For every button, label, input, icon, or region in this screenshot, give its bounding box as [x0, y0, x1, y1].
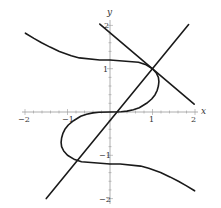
- plot-area: −2 −1 1 2 2 1 −1 −2 x y: [0, 0, 221, 208]
- x-axis-label: x: [201, 106, 206, 116]
- y-axis-label: y: [106, 7, 113, 17]
- x-tick-label-1: 1: [149, 115, 154, 124]
- x-tick-label-neg2: −2: [18, 115, 30, 124]
- y-tick-label-neg2: −2: [99, 195, 111, 204]
- y-tick-label-1: 1: [103, 65, 108, 74]
- x-tick-label-2: 2: [191, 115, 196, 124]
- y-tick-label-neg1: −1: [99, 151, 111, 160]
